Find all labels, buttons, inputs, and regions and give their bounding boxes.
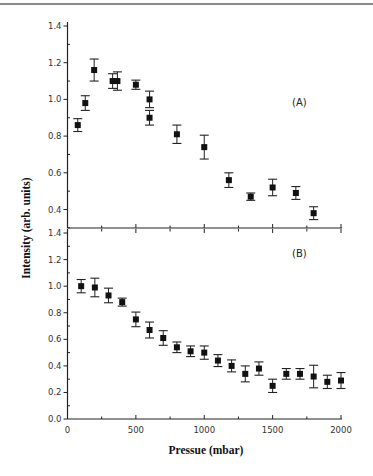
- data-point: [224, 173, 233, 188]
- data-point: [323, 375, 332, 388]
- data-point: [268, 379, 277, 392]
- y-tick-label: 0.8: [48, 131, 62, 141]
- data-point: [73, 119, 82, 132]
- y-axis-title: Intensity (arb. units): [20, 177, 33, 278]
- y-tick-label: 1.2: [48, 255, 62, 265]
- data-point: [291, 187, 300, 200]
- data-point: [77, 280, 86, 293]
- y-tick-label: 0.8: [48, 308, 62, 318]
- y-tick-label: 0.6: [48, 334, 62, 344]
- data-point: [309, 365, 318, 388]
- y-tick-label: 0.2: [48, 387, 62, 397]
- y-tick-label: 0.6: [48, 168, 62, 178]
- y-tick-label: 1.0: [48, 94, 62, 104]
- data-point: [241, 366, 250, 382]
- chart-figure: 0.40.60.81.01.21.4 05001000150020000.00.…: [0, 0, 373, 476]
- panel-a: 0.40.60.81.01.21.4: [48, 21, 342, 228]
- y-tick-label: 0.4: [48, 361, 62, 371]
- y-tick-label: 0.4: [48, 205, 62, 215]
- y-tick-label: 1.2: [48, 58, 62, 68]
- data-point: [268, 179, 277, 196]
- x-tick-label: 1000: [193, 425, 215, 435]
- data-point: [145, 110, 154, 125]
- data-point: [90, 59, 99, 81]
- data-point: [309, 207, 318, 220]
- data-point: [145, 91, 154, 108]
- data-point: [145, 322, 154, 338]
- data-point: [172, 342, 181, 353]
- y-tick-label: 1.4: [48, 228, 62, 238]
- data-point: [246, 193, 255, 200]
- data-point: [90, 278, 99, 297]
- y-tick-label: 0.0: [48, 414, 62, 424]
- data-point: [227, 360, 236, 372]
- data-point: [282, 369, 291, 380]
- panel-b-label: (B): [292, 248, 307, 259]
- x-tick-label: 500: [128, 425, 144, 435]
- x-axis-title: Pressue (mbar): [169, 444, 244, 457]
- data-point: [81, 96, 90, 111]
- data-point: [254, 362, 263, 375]
- data-point: [131, 312, 140, 327]
- data-point: [118, 298, 127, 306]
- panel-a-label: (A): [292, 97, 307, 108]
- x-tick-label: 1500: [262, 425, 284, 435]
- x-tick-label: 0: [65, 425, 70, 435]
- data-point: [131, 80, 140, 89]
- panel-b: 05001000150020000.00.20.40.60.81.01.21.4: [48, 228, 352, 435]
- x-tick-label: 2000: [330, 425, 352, 435]
- data-point: [186, 346, 195, 357]
- data-point: [104, 288, 113, 303]
- data-point: [337, 373, 346, 389]
- data-point: [200, 346, 209, 359]
- data-point: [295, 369, 304, 380]
- y-tick-label: 1.4: [48, 21, 62, 31]
- data-point: [159, 331, 168, 346]
- data-point: [200, 135, 209, 159]
- y-tick-label: 1.0: [48, 281, 62, 291]
- data-point: [172, 125, 181, 143]
- data-point: [213, 355, 222, 367]
